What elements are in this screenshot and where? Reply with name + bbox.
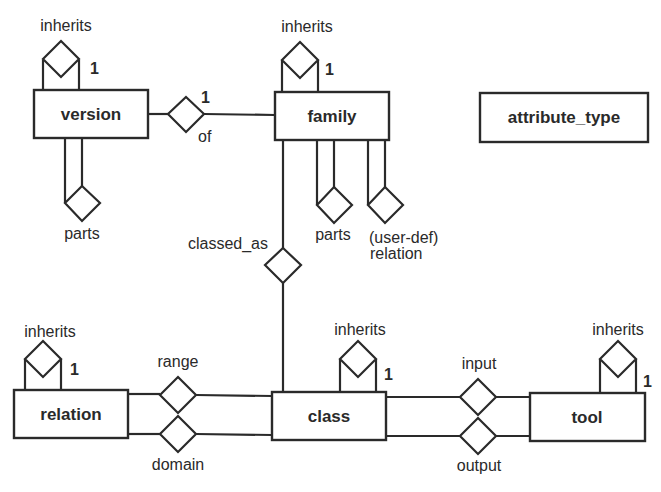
tool-inherits-cardinality: 1 (643, 373, 652, 390)
version-parts-label: parts (64, 225, 100, 242)
version-inherits-cardinality: 1 (90, 60, 99, 77)
entity-attribute-type[interactable]: attribute_type (480, 93, 648, 142)
diamond-icon (282, 42, 318, 78)
entity-class[interactable]: class (272, 392, 386, 440)
family-inherits-cardinality: 1 (325, 61, 334, 78)
entity-tool[interactable]: tool (530, 393, 645, 441)
diamond-icon (317, 187, 352, 223)
input-label: input (462, 355, 497, 372)
diamond-icon (43, 41, 79, 77)
diamond-icon (168, 97, 204, 132)
diamond-icon (340, 341, 376, 377)
range-domain-connector-lines (128, 394, 272, 435)
relationship-input[interactable]: input (460, 355, 497, 415)
range-label: range (158, 353, 199, 370)
relation-inherits-cardinality: 1 (70, 361, 79, 378)
entity-attribute-type-label: attribute_type (508, 108, 620, 127)
class-inherits-cardinality: 1 (384, 366, 393, 383)
domain-label: domain (152, 456, 204, 473)
class-inherits-label: inherits (334, 321, 386, 338)
entity-relation-label: relation (40, 405, 101, 424)
relation-inherits-label: inherits (24, 323, 76, 340)
diamond-icon (160, 416, 196, 452)
user-def-label-line1: (user-def) (369, 229, 438, 246)
of-cardinality: 1 (201, 89, 210, 106)
relationship-family-inherits[interactable]: inherits 1 (281, 18, 334, 78)
diamond-icon (25, 341, 61, 377)
relationship-range[interactable]: range (158, 353, 199, 413)
entity-version-label: version (61, 105, 121, 124)
relationship-output[interactable]: output (457, 418, 502, 474)
relationship-version-inherits[interactable]: inherits 1 (40, 17, 99, 77)
relationship-version-parts[interactable]: parts (64, 186, 100, 242)
diamond-icon (160, 377, 196, 413)
diamond-icon (265, 248, 301, 283)
of-label: of (198, 128, 212, 145)
diamond-icon (460, 418, 496, 454)
relationship-tool-inherits[interactable]: inherits 1 (592, 321, 652, 390)
classed-as-label: classed_as (188, 235, 268, 253)
entity-family-label: family (307, 107, 357, 126)
relationship-class-inherits[interactable]: inherits 1 (334, 321, 393, 383)
entity-relation[interactable]: relation (14, 390, 128, 438)
input-output-connector-lines (386, 397, 530, 436)
relationship-of[interactable]: 1 of (168, 89, 212, 145)
user-def-label-line2: relation (370, 245, 422, 262)
relationship-relation-inherits[interactable]: inherits 1 (24, 323, 79, 378)
er-diagram: version family attribute_type relation c… (0, 0, 661, 492)
entity-class-label: class (308, 407, 351, 426)
relationship-family-parts[interactable]: parts (315, 187, 352, 243)
entity-tool-label: tool (571, 408, 602, 427)
tool-inherits-label: inherits (592, 321, 644, 338)
entity-family[interactable]: family (275, 92, 389, 140)
family-parts-label: parts (315, 226, 351, 243)
diamond-icon (600, 341, 636, 377)
relationship-domain[interactable]: domain (152, 416, 204, 473)
relationship-user-def[interactable]: (user-def) relation (368, 187, 438, 262)
diamond-icon (65, 186, 100, 221)
diamond-icon (460, 379, 496, 415)
output-label: output (457, 457, 502, 474)
family-inherits-label: inherits (281, 18, 333, 35)
version-inherits-label: inherits (40, 17, 92, 34)
diamond-icon (368, 187, 403, 223)
entity-version[interactable]: version (34, 90, 148, 138)
